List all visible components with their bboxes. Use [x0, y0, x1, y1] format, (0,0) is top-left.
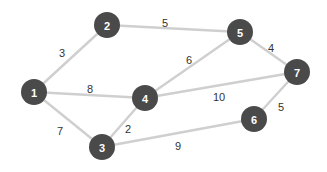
edge-2-5	[107, 25, 240, 32]
node-7: 7	[284, 59, 310, 85]
edge-4-5	[145, 32, 240, 98]
edge-weight-label: 2	[125, 123, 131, 135]
node-label: 7	[294, 67, 300, 79]
node-label: 1	[31, 87, 37, 99]
edge-weight-label: 5	[162, 17, 168, 29]
edge-weight-label: 5	[278, 101, 284, 113]
node-2: 2	[94, 12, 120, 38]
edge-weight-label: 6	[186, 54, 192, 66]
edge-1-3	[34, 92, 102, 147]
node-label: 2	[104, 20, 110, 32]
nodes-layer: 1234567	[21, 12, 310, 160]
node-label: 4	[142, 93, 149, 105]
node-4: 4	[132, 85, 158, 111]
edge-weight-label: 4	[268, 42, 274, 54]
node-5: 5	[227, 19, 253, 45]
node-label: 6	[251, 114, 257, 126]
edge-weight-label: 9	[175, 140, 181, 152]
edge-weight-label: 7	[57, 125, 63, 137]
edge-1-2	[34, 25, 107, 92]
edge-weight-label: 3	[59, 47, 65, 59]
edge-weight-label: 10	[213, 91, 225, 103]
graph-diagram: 35864107295 1234567	[0, 0, 327, 172]
edge-weight-label: 8	[87, 83, 93, 95]
node-6: 6	[241, 106, 267, 132]
node-label: 3	[99, 142, 105, 154]
node-1: 1	[21, 79, 47, 105]
node-label: 5	[237, 27, 243, 39]
node-3: 3	[89, 134, 115, 160]
